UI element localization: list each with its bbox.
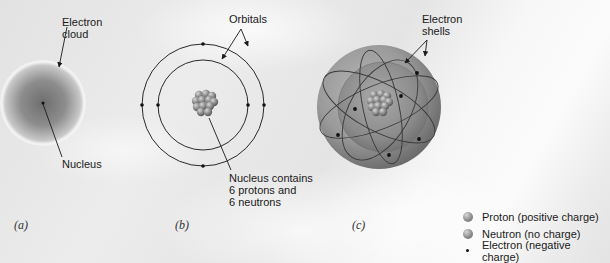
- electron-shells-label: Electron shells: [422, 13, 462, 37]
- nucleus-cluster: [192, 90, 218, 116]
- orbital-arrow-outer: [241, 29, 248, 46]
- legend-item-electron: Electron (negative charge): [461, 242, 610, 259]
- panel-c-shell-model: [312, 40, 445, 173]
- neutron-ball-icon: [463, 229, 473, 239]
- legend: Proton (positive charge) Neutron (no cha…: [461, 208, 610, 259]
- panel-a-electron-cloud-model: [0, 27, 86, 157]
- legend-item-proton: Proton (positive charge): [461, 208, 610, 225]
- nucleus-label: Nucleus: [62, 158, 102, 170]
- nucleus-leader-line: [209, 118, 231, 170]
- electron-dot-icon: [466, 249, 469, 252]
- proton-ball-icon: [463, 212, 473, 222]
- orbitals-label: Orbitals: [229, 13, 267, 25]
- orbital-arrow-inner: [222, 29, 241, 59]
- panel-b-orbital-model: [140, 29, 266, 170]
- legend-label: Proton (positive charge): [482, 211, 599, 223]
- electron-cloud-label: Electron cloud: [62, 16, 102, 40]
- nucleus-contents-label: Nucleus contains 6 protons and 6 neutron…: [229, 172, 313, 208]
- panel-label-a: (a): [14, 218, 28, 233]
- legend-label: Electron (negative charge): [482, 239, 610, 263]
- panel-label-b: (b): [175, 218, 189, 233]
- panel-label-c: (c): [352, 218, 365, 233]
